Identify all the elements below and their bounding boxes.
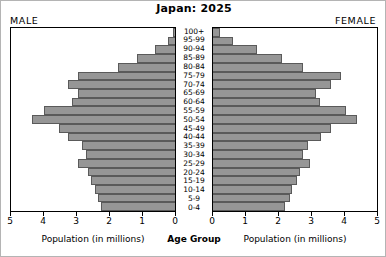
bar-female-100+ <box>213 28 220 37</box>
male-bar-rows <box>11 28 175 211</box>
bar-row <box>213 176 377 185</box>
age-label-80-84: 80-84 <box>176 62 212 71</box>
age-label-60-64: 60-64 <box>176 98 212 107</box>
bar-female-40-44 <box>213 133 321 142</box>
female-side-label: FEMALE <box>335 15 376 26</box>
bar-row <box>213 194 377 203</box>
age-label-85-89: 85-89 <box>176 53 212 62</box>
bar-male-75-79 <box>78 72 175 81</box>
bar-row <box>213 72 377 81</box>
axis-tick-label-5: 5 <box>374 216 380 226</box>
chart-title: Japan: 2025 <box>1 2 386 15</box>
bar-row <box>213 45 377 54</box>
bar-row <box>213 168 377 177</box>
bar-row <box>11 150 175 159</box>
bar-male-90-94 <box>155 45 175 54</box>
axis-tick-label-2: 2 <box>275 216 281 226</box>
female-x-axis: 012345 <box>212 212 378 230</box>
bar-female-55-59 <box>213 106 346 115</box>
bar-male-55-59 <box>44 106 175 115</box>
bar-row <box>11 72 175 81</box>
bar-row <box>213 115 377 124</box>
bar-row <box>11 124 175 133</box>
bar-row <box>11 63 175 72</box>
bar-row <box>11 141 175 150</box>
axis-tick-label-0: 0 <box>172 216 178 226</box>
bar-female-30-34 <box>213 150 303 159</box>
bar-row <box>11 106 175 115</box>
male-side-label: MALE <box>10 15 38 26</box>
bar-female-35-39 <box>213 141 308 150</box>
bar-row <box>213 150 377 159</box>
bar-male-85-89 <box>137 54 175 63</box>
male-plot-panel <box>10 27 176 212</box>
bar-male-5-9 <box>98 194 175 203</box>
bar-female-85-89 <box>213 54 282 63</box>
female-bar-rows <box>213 28 377 211</box>
male-x-axis: 543210 <box>10 212 176 230</box>
age-label-25-29: 25-29 <box>176 159 212 168</box>
axis-tick-label-4: 4 <box>40 216 46 226</box>
bar-female-95-99 <box>213 37 233 46</box>
bar-male-25-29 <box>78 159 175 168</box>
axis-tick-label-4: 4 <box>341 216 347 226</box>
bar-row <box>213 159 377 168</box>
bar-male-50-54 <box>32 115 175 124</box>
bar-row <box>11 89 175 98</box>
bar-row <box>213 54 377 63</box>
bar-female-50-54 <box>213 115 357 124</box>
bar-male-10-14 <box>95 185 175 194</box>
bar-male-30-34 <box>86 150 175 159</box>
bar-female-75-79 <box>213 72 341 81</box>
bar-female-70-74 <box>213 80 331 89</box>
bar-row <box>213 106 377 115</box>
age-label-5-9: 5-9 <box>176 194 212 203</box>
female-axis-title: Population (in millions) <box>195 234 386 244</box>
bar-row <box>213 133 377 142</box>
bar-female-65-69 <box>213 89 316 98</box>
bar-male-0-4 <box>101 202 175 211</box>
bar-row <box>11 54 175 63</box>
bar-male-45-49 <box>59 124 175 133</box>
bar-male-80-84 <box>118 63 175 72</box>
bar-male-100+ <box>173 28 175 37</box>
bar-male-20-24 <box>88 168 175 177</box>
bar-row <box>11 37 175 46</box>
bar-female-25-29 <box>213 159 310 168</box>
age-label-75-79: 75-79 <box>176 71 212 80</box>
bar-row <box>213 80 377 89</box>
bar-row <box>11 168 175 177</box>
bar-row <box>11 194 175 203</box>
bar-female-45-49 <box>213 124 331 133</box>
bar-female-60-64 <box>213 98 320 107</box>
axis-tick-label-3: 3 <box>308 216 314 226</box>
bar-row <box>213 63 377 72</box>
chart-frame: Japan: 2025 MALE FEMALE 100+95-9990-9485… <box>0 0 386 257</box>
bar-male-35-39 <box>82 141 175 150</box>
bar-female-90-94 <box>213 45 257 54</box>
bar-female-80-84 <box>213 63 303 72</box>
bar-male-70-74 <box>68 80 175 89</box>
bar-row <box>213 141 377 150</box>
bar-row <box>213 28 377 37</box>
bar-row <box>11 202 175 211</box>
bar-row <box>213 37 377 46</box>
axis-tick-label-2: 2 <box>106 216 112 226</box>
bar-row <box>11 28 175 37</box>
bar-male-40-44 <box>68 133 175 142</box>
bar-male-95-99 <box>168 37 175 46</box>
bar-female-15-19 <box>213 176 297 185</box>
age-label-55-59: 55-59 <box>176 106 212 115</box>
age-label-50-54: 50-54 <box>176 115 212 124</box>
bar-row <box>213 202 377 211</box>
axis-tick-label-1: 1 <box>242 216 248 226</box>
age-label-0-4: 0-4 <box>176 203 212 212</box>
bar-row <box>11 159 175 168</box>
bar-row <box>213 98 377 107</box>
bar-row <box>213 124 377 133</box>
axis-tick-label-5: 5 <box>7 216 13 226</box>
bar-row <box>11 176 175 185</box>
axis-tick-label-0: 0 <box>209 216 215 226</box>
bar-row <box>213 185 377 194</box>
bar-row <box>11 45 175 54</box>
